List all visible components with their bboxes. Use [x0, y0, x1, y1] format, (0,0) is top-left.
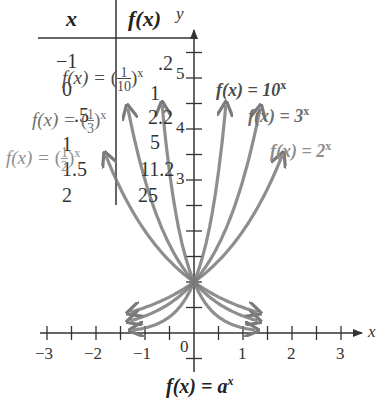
table-cell-fx: 25 — [138, 184, 158, 207]
table-header-fx: f(x) — [128, 6, 161, 32]
x-tick-label: 1 — [238, 344, 247, 364]
x-tick-label: 2 — [287, 344, 296, 364]
x-tick-label: −1 — [133, 344, 151, 364]
curve-third-to-x — [128, 108, 258, 320]
label-ten-to-x: f(x) = 10x — [216, 78, 286, 101]
y-axis-label: y — [176, 4, 184, 24]
x-tick-label: 3 — [336, 344, 345, 364]
x-axis-label: x — [368, 322, 376, 342]
label-three-to-x: f(x) = 3x — [248, 104, 309, 127]
table-cell-x: 2 — [62, 184, 72, 207]
x-tick-label: −3 — [35, 344, 53, 364]
y-tick-label: 4 — [176, 118, 185, 138]
table-cell-fx: 5 — [150, 131, 160, 154]
table-cell-fx: 2.2 — [148, 106, 173, 129]
table-header-x: x — [66, 6, 77, 32]
x-tick-label: 0 — [180, 337, 189, 357]
table-cell-fx: .2 — [158, 52, 173, 75]
x-tick-label: −2 — [84, 344, 102, 364]
label-tenth-to-x: f(x) = (110)x — [62, 66, 143, 94]
table-cell-fx: 1 — [150, 82, 160, 105]
label-two-to-x: f(x) = 2x — [270, 139, 331, 162]
chart-caption: f(x) = ax — [166, 374, 233, 398]
label-half-to-x: f(x) = (12)x — [6, 146, 80, 174]
y-tick-label: 5 — [176, 64, 185, 84]
table-cell-fx: 11.2 — [140, 158, 174, 181]
y-tick-label: 3 — [176, 169, 185, 189]
label-third-to-x: f(x) = (13)x — [32, 108, 106, 136]
